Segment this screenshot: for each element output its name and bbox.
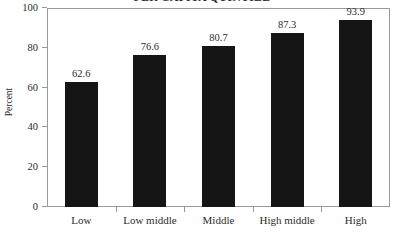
- y-axis-tick: 0: [0, 201, 47, 213]
- x-axis-tick-label: High middle: [253, 212, 322, 228]
- y-axis-tick-mark: [42, 47, 47, 48]
- y-axis-tick-label: 20: [28, 161, 39, 173]
- y-axis-tick-label: 100: [22, 2, 38, 14]
- y-axis-tick-mark: [42, 7, 47, 8]
- y-axis-tick-label: 0: [33, 201, 38, 213]
- x-axis-tick-label: High: [321, 212, 390, 228]
- chart-title: PER CAPITA QUINTILE: [0, 0, 404, 3]
- y-axis-tick: 80: [0, 42, 47, 54]
- y-axis-tick-mark: [42, 206, 47, 207]
- y-axis-tick: 20: [0, 161, 47, 173]
- bar-chart-figure: PER CAPITA QUINTILE Percent 020406080100…: [0, 0, 404, 239]
- bar: [339, 20, 372, 207]
- bar: [202, 46, 235, 207]
- y-axis-tick-label: 40: [28, 121, 39, 133]
- y-axis-tick: 100: [0, 2, 47, 14]
- x-axis-tick-label: Middle: [184, 212, 253, 228]
- y-axis-tick-label: 80: [28, 42, 39, 54]
- y-axis-tick: 40: [0, 121, 47, 133]
- bar-value-label: 76.6: [116, 40, 185, 53]
- bar: [65, 82, 98, 207]
- x-axis-tick-label: Low: [47, 212, 116, 228]
- bar-value-label: 87.3: [253, 18, 322, 31]
- bar: [133, 55, 166, 207]
- bar: [271, 33, 304, 207]
- bar-value-label: 93.9: [321, 5, 390, 18]
- bar-value-label: 80.7: [184, 31, 253, 44]
- y-axis-tick-mark: [42, 126, 47, 127]
- y-axis-tick-mark: [42, 166, 47, 167]
- bar-value-label: 62.6: [47, 67, 116, 80]
- y-axis-tick: 60: [0, 82, 47, 94]
- y-axis-tick-mark: [42, 87, 47, 88]
- y-axis-tick-label: 60: [28, 82, 39, 94]
- x-axis-tick-label: Low middle: [116, 212, 185, 228]
